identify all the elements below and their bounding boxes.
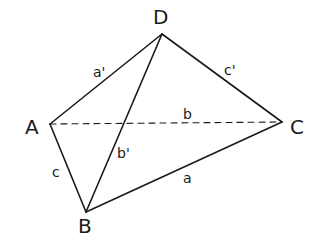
edge-DC xyxy=(162,34,282,122)
edge-AC xyxy=(50,122,282,124)
vertex-label-B: B xyxy=(78,214,92,235)
tetrahedron-diagram: D A C B a' c' b b' c a xyxy=(0,0,333,235)
edge-AD xyxy=(50,34,162,124)
edge-label-BC: a xyxy=(183,170,192,186)
edge-label-AC: b xyxy=(183,106,192,122)
edge-label-AB: c xyxy=(52,164,60,180)
edge-label-DC: c' xyxy=(224,62,236,78)
edge-label-DB: b' xyxy=(117,145,130,161)
vertex-label-C: C xyxy=(290,115,304,139)
edge-BC xyxy=(86,122,282,212)
vertex-label-D: D xyxy=(153,5,168,29)
vertex-label-A: A xyxy=(25,115,39,139)
edge-label-AD: a' xyxy=(93,64,105,80)
